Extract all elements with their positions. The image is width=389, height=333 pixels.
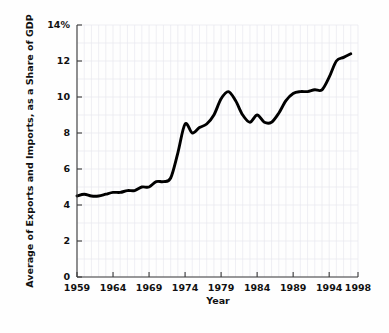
x-tick-label: 1998: [345, 282, 372, 293]
y-tick-label: 14%: [47, 19, 70, 30]
chart-svg: 02468101214% 195919641969197419791984198…: [0, 0, 389, 333]
chart-figure: 02468101214% 195919641969197419791984198…: [0, 0, 389, 333]
y-tick-label: 12: [57, 55, 70, 66]
y-axis-title: Average of Exports and Imports, as a Sha…: [24, 14, 35, 287]
x-axis-title: Year: [205, 295, 230, 306]
x-tick-label: 1969: [136, 282, 162, 293]
y-tick-label: 0: [63, 271, 70, 282]
x-tick-label: 1964: [100, 282, 127, 293]
y-tick-label: 4: [63, 199, 70, 210]
x-tick-label: 1979: [208, 282, 234, 293]
y-tick-label: 10: [57, 91, 71, 102]
x-tick-label: 1984: [244, 282, 271, 293]
x-tick-label: 1994: [316, 282, 343, 293]
x-tick-label: 1959: [64, 282, 90, 293]
y-tick-label: 6: [63, 163, 70, 174]
y-tick-label: 8: [63, 127, 70, 138]
y-tick-label: 2: [63, 235, 70, 246]
x-tick-label: 1974: [172, 282, 199, 293]
x-tick-label: 1989: [280, 282, 306, 293]
